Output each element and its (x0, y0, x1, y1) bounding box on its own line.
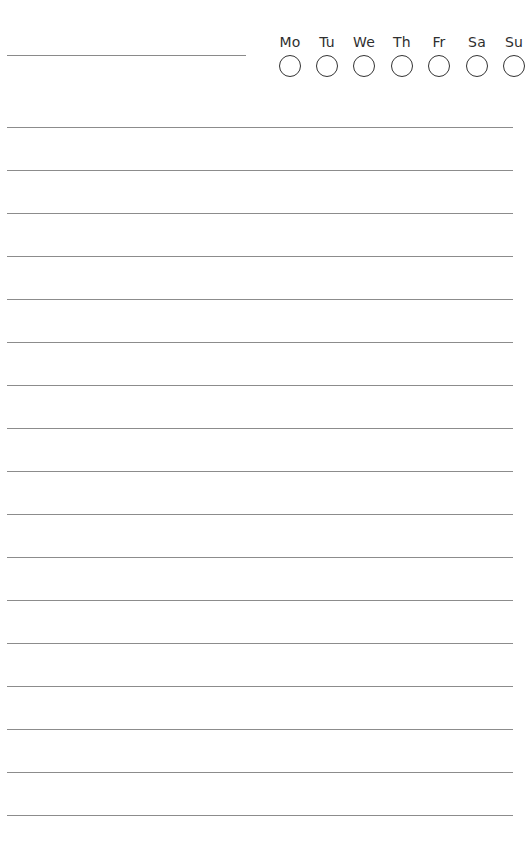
ruled-line[interactable] (7, 299, 513, 300)
ruled-line[interactable] (7, 213, 513, 214)
ruled-line[interactable] (7, 428, 513, 429)
ruled-line[interactable] (7, 772, 513, 773)
ruled-line[interactable] (7, 557, 513, 558)
ruled-line[interactable] (7, 643, 513, 644)
ruled-line[interactable] (7, 514, 513, 515)
ruled-line[interactable] (7, 385, 513, 386)
ruled-line[interactable] (7, 127, 513, 128)
ruled-line[interactable] (7, 600, 513, 601)
ruled-line[interactable] (7, 471, 513, 472)
ruled-line[interactable] (7, 170, 513, 171)
ruled-line[interactable] (7, 256, 513, 257)
ruled-line[interactable] (7, 815, 513, 816)
ruled-line[interactable] (7, 729, 513, 730)
ruled-line[interactable] (7, 686, 513, 687)
ruled-line[interactable] (7, 342, 513, 343)
